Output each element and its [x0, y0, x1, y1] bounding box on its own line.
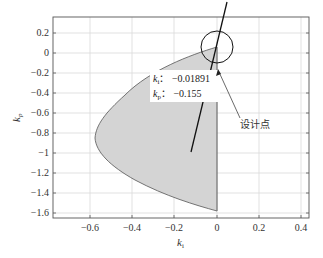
y-tick: −0.4	[31, 87, 49, 98]
y-tick: 0.2	[37, 27, 50, 38]
y-tick: −0.6	[31, 107, 49, 118]
y-tick: −0.2	[31, 67, 49, 78]
y-tick: −1.2	[31, 167, 49, 178]
y-tick-labels: 0.2 0 −0.2 −0.4 −0.6 −0.8 −1 −1.2 −1.4 −…	[31, 27, 49, 218]
y-tick: −0.8	[31, 127, 49, 138]
y-tick: 0	[44, 47, 49, 58]
x-tick: −0.4	[123, 222, 141, 233]
x-tick: 0	[215, 222, 220, 233]
x-tick: −0.2	[165, 222, 183, 233]
x-tick: −0.6	[81, 222, 99, 233]
x-tick: 0.4	[295, 222, 308, 233]
chart: −0.6 −0.4 −0.2 0 0.2 0.4 0.2 0 −0.2 −0.4…	[0, 0, 323, 258]
y-tick: −1	[38, 147, 49, 158]
design-point-label: 设计点	[240, 118, 270, 130]
y-tick: −1.6	[31, 207, 49, 218]
y-tick: −1.4	[31, 187, 49, 198]
x-tick-labels: −0.6 −0.4 −0.2 0 0.2 0.4	[81, 222, 307, 233]
svg-text:kp: kp	[10, 113, 24, 122]
x-tick: 0.2	[253, 222, 266, 233]
x-axis-label: ki	[177, 236, 184, 250]
y-axis-label: kp	[10, 113, 24, 122]
